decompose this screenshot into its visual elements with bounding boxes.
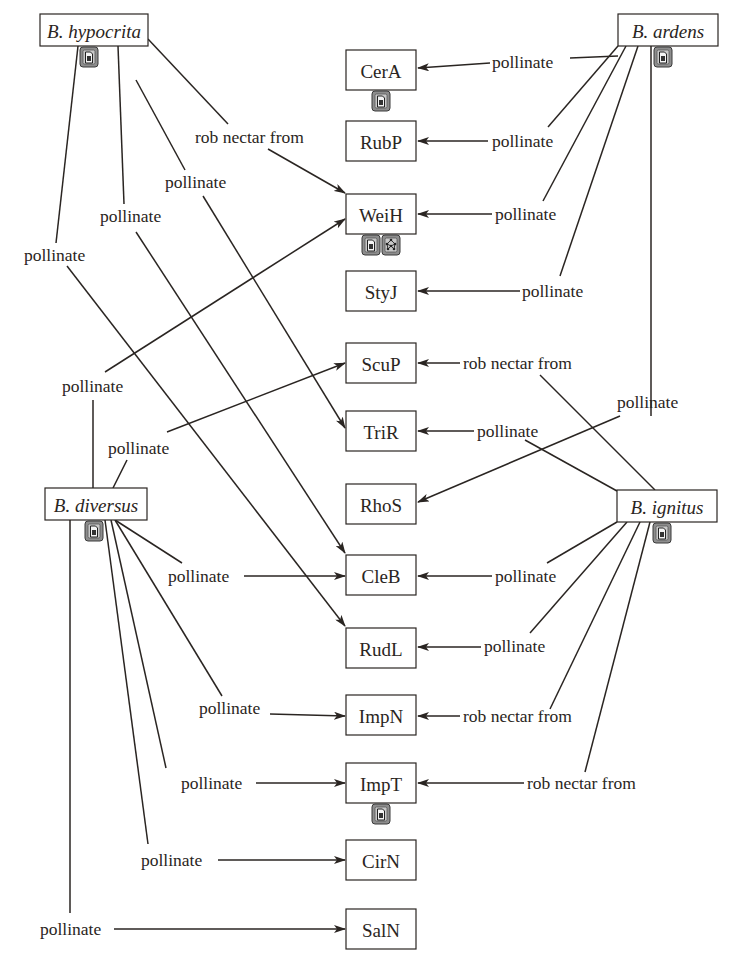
document-icon[interactable]: [372, 804, 390, 824]
edge-b-hypocrita-to-weih: rob nectar from: [148, 39, 345, 193]
plant-node-impt[interactable]: ImpT: [346, 763, 416, 824]
edge-label: pollinate: [141, 850, 202, 870]
edge-arrow: [418, 63, 490, 68]
edge-connector: [543, 46, 626, 201]
edge-label: pollinate: [522, 281, 583, 301]
edge-label: rob nectar from: [527, 773, 636, 793]
species-node-b-ignitus[interactable]: B. ignitus: [617, 490, 717, 543]
edge-b-ignitus-to-cleb: pollinate: [418, 522, 617, 586]
plant-node-rubp[interactable]: RubP: [346, 121, 416, 161]
edge-b-diversus-to-weih: pollinate: [62, 219, 345, 488]
edge-arrow: [105, 219, 345, 372]
node-label: B. hypocrita: [47, 21, 141, 42]
edge-connector: [148, 39, 228, 124]
edge-arrow: [203, 196, 345, 428]
edge-b-ignitus-to-impn: rob nectar from: [418, 522, 640, 726]
edge-connector: [550, 522, 640, 709]
edge-label: pollinate: [108, 438, 169, 458]
node-label: B. diversus: [54, 495, 138, 516]
plant-node-scup[interactable]: ScuP: [346, 343, 416, 383]
plant-node-saln[interactable]: SalN: [346, 909, 416, 949]
node-label: CleB: [361, 566, 400, 587]
plant-node-weih[interactable]: WeiH: [346, 194, 416, 255]
edge-label: rob nectar from: [195, 127, 304, 147]
edge-connector: [111, 520, 166, 768]
node-label: RubP: [360, 132, 402, 153]
edge-b-diversus-to-impn: pollinate: [115, 520, 345, 718]
edge-label: pollinate: [165, 172, 226, 192]
edge-label: pollinate: [617, 392, 678, 412]
plant-node-impn[interactable]: ImpN: [346, 695, 416, 735]
edge-label: pollinate: [181, 773, 242, 793]
edge-label: pollinate: [100, 206, 161, 226]
edge-label: rob nectar from: [463, 353, 572, 373]
node-label: B. ignitus: [631, 497, 704, 518]
edge-b-diversus-to-scup: pollinate: [108, 363, 345, 488]
edge-arrow: [268, 149, 345, 193]
species-node-b-hypocrita[interactable]: B. hypocrita: [40, 14, 148, 67]
node-label: ScuP: [361, 354, 400, 375]
node-label: CirN: [362, 851, 400, 872]
edge-label: pollinate: [199, 698, 260, 718]
edge-label: pollinate: [62, 376, 123, 396]
edge-b-diversus-to-impt: pollinate: [111, 520, 345, 793]
node-label: ImpT: [360, 774, 403, 795]
plant-node-styj[interactable]: StyJ: [346, 271, 416, 311]
document-icon[interactable]: [653, 523, 671, 543]
edge-label: pollinate: [484, 636, 545, 656]
document-icon[interactable]: [85, 521, 103, 541]
edge-b-ardens-to-rhos: pollinate: [418, 46, 678, 502]
node-label: TriR: [363, 422, 399, 443]
node-label: SalN: [362, 920, 400, 941]
node-label: RhoS: [360, 495, 402, 516]
edge-label: pollinate: [24, 245, 85, 265]
plant-node-cera[interactable]: CerA: [346, 50, 416, 111]
edge-connector: [570, 56, 618, 58]
edge-label: pollinate: [495, 204, 556, 224]
edge-label: pollinate: [477, 421, 538, 441]
edge-connector: [136, 80, 185, 170]
edge-connector: [547, 522, 617, 563]
edge-connector: [56, 46, 78, 243]
edge-connector: [560, 46, 638, 276]
plant-node-cirn[interactable]: CirN: [346, 840, 416, 880]
edge-label: pollinate: [168, 566, 229, 586]
node-label: ImpN: [359, 706, 404, 727]
species-node-b-diversus[interactable]: B. diversus: [45, 488, 147, 541]
edge-label: pollinate: [492, 52, 553, 72]
edge-arrow: [136, 232, 345, 553]
document-icon[interactable]: [80, 47, 98, 67]
network-icon[interactable]: [382, 235, 400, 255]
node-label: StyJ: [365, 282, 398, 303]
edge-label: rob nectar from: [463, 706, 572, 726]
edge-arrow: [167, 363, 345, 432]
edge-connector: [115, 520, 182, 563]
node-label: CerA: [360, 61, 401, 82]
edge-connector: [525, 440, 617, 491]
nodes-layer: CerARubPWeiHStyJScuPTriRRhoSCleBRudLImpN…: [40, 14, 718, 949]
edge-connector: [105, 520, 148, 844]
edge-connector: [118, 46, 124, 204]
document-icon[interactable]: [654, 47, 672, 67]
node-label: B. ardens: [632, 21, 704, 42]
plant-node-cleb[interactable]: CleB: [346, 555, 416, 595]
edge-b-ardens-to-cera: pollinate: [418, 52, 618, 72]
edge-arrow: [270, 714, 345, 716]
node-label: WeiH: [359, 205, 403, 226]
edge-connector: [113, 460, 127, 488]
plant-node-trir[interactable]: TriR: [346, 411, 416, 451]
node-label: RudL: [359, 639, 402, 660]
edge-label: pollinate: [495, 566, 556, 586]
edge-b-ignitus-to-rudl: pollinate: [418, 522, 627, 656]
edge-label: pollinate: [492, 131, 553, 151]
edge-b-hypocrita-to-cleb: pollinate: [100, 46, 345, 553]
plant-node-rhos[interactable]: RhoS: [346, 484, 416, 524]
document-icon[interactable]: [372, 91, 390, 111]
document-icon[interactable]: [362, 235, 380, 255]
edge-b-ignitus-to-trir: pollinate: [418, 421, 617, 491]
interaction-network-diagram: pollinatepollinatepollinatepollinatepoll…: [0, 0, 745, 968]
plant-node-rudl[interactable]: RudL: [346, 628, 416, 668]
edge-b-ignitus-to-impt: rob nectar from: [418, 522, 650, 793]
edge-label: pollinate: [40, 919, 101, 939]
